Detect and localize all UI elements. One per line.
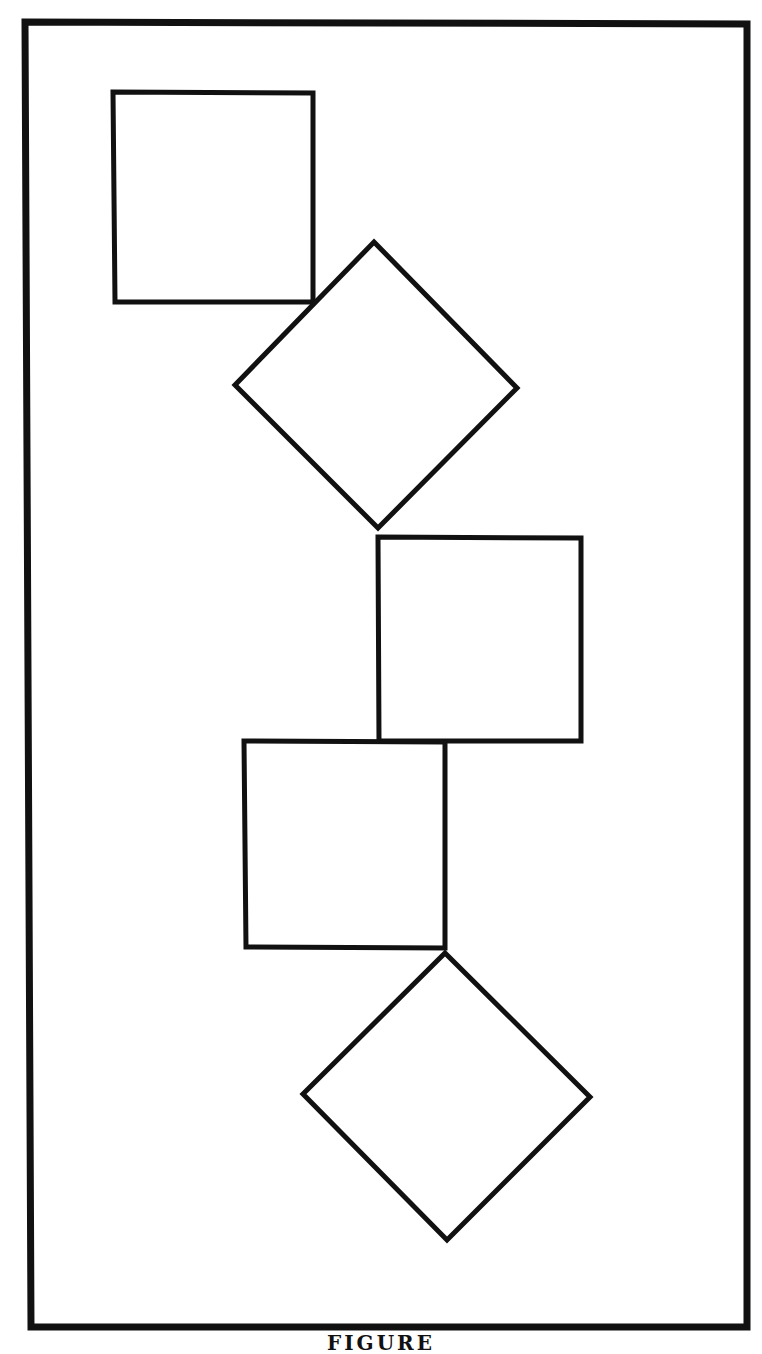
square-2	[378, 537, 581, 741]
outer-frame	[25, 22, 747, 1327]
diamond-2	[303, 953, 590, 1240]
square-3	[244, 741, 445, 948]
diamond-1	[235, 242, 517, 528]
square-1	[113, 92, 313, 302]
figure-caption: FIGURE	[0, 1333, 762, 1353]
